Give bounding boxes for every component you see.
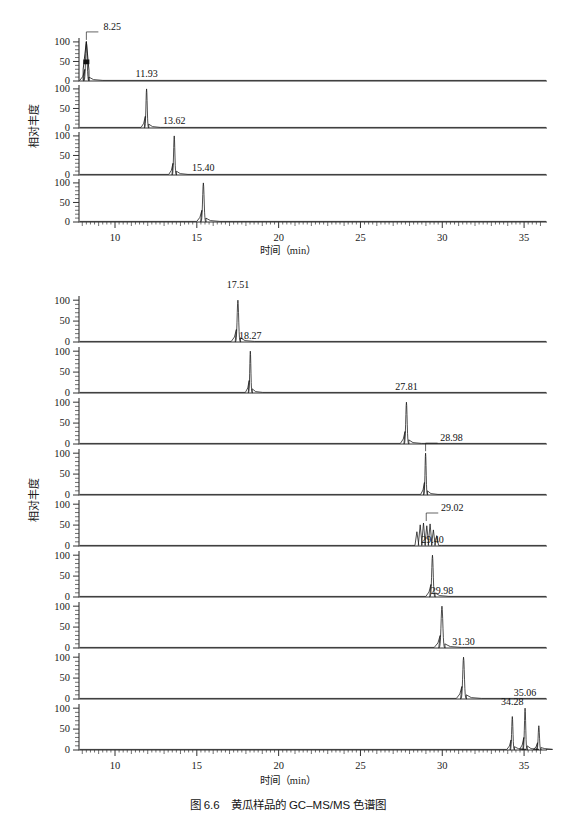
svg-text:50: 50	[60, 621, 71, 632]
peak-label: 15.40	[192, 162, 215, 173]
peak-label: 8.25	[104, 21, 122, 32]
svg-text:100: 100	[54, 448, 70, 459]
svg-text:50: 50	[60, 417, 71, 428]
peak-label: 17.51	[227, 279, 250, 290]
svg-text:50: 50	[60, 519, 71, 530]
y-axis-label-upper: 相对丰度	[27, 104, 40, 148]
svg-text:100: 100	[54, 550, 70, 561]
x-tick-label: 30	[437, 232, 448, 243]
chromatogram-svg: 1005008.2510050011.9310050013.6210050015…	[0, 0, 576, 836]
panel-upper-2: 10050011.93	[54, 68, 547, 133]
svg-text:100: 100	[54, 652, 70, 663]
panel-lower-9: 10050034.2835.06101520253035	[54, 687, 552, 771]
svg-text:50: 50	[60, 468, 71, 479]
x-axis-label-upper: 时间（min）	[260, 244, 316, 256]
panel-upper-3: 10050013.62	[54, 115, 547, 180]
svg-text:50: 50	[60, 570, 71, 581]
x-tick-label: 25	[355, 232, 366, 243]
svg-text:100: 100	[54, 499, 70, 510]
svg-text:100: 100	[54, 83, 70, 94]
x-tick-label: 25	[355, 760, 366, 771]
x-tick-label: 35	[519, 760, 530, 771]
figure-caption: 图 6.6 黄瓜样品的 GC–MS/MS 色谱图	[190, 799, 387, 811]
peak-label: 35.06	[514, 687, 537, 698]
x-axis-label-lower: 时间（min）	[260, 774, 316, 786]
svg-text:100: 100	[54, 703, 70, 714]
x-tick-label: 20	[273, 760, 284, 771]
peak-label: 31.30	[452, 636, 475, 647]
panel-upper-1: 1005008.25	[54, 21, 547, 86]
svg-text:50: 50	[60, 150, 71, 161]
svg-text:100: 100	[54, 36, 70, 47]
x-tick-label: 15	[192, 760, 203, 771]
x-tick-label: 15	[192, 232, 203, 243]
peak-label: 29.98	[431, 585, 454, 596]
svg-text:50: 50	[60, 197, 71, 208]
peak-label: 27.81	[395, 381, 418, 392]
svg-text:0: 0	[65, 216, 70, 227]
peak-label: 11.93	[136, 68, 158, 79]
x-tick-label: 10	[110, 760, 121, 771]
svg-text:50: 50	[60, 366, 71, 377]
svg-text:50: 50	[60, 56, 71, 67]
panel-lower-2: 10050018.27	[54, 330, 547, 398]
svg-text:100: 100	[54, 295, 70, 306]
svg-text:100: 100	[54, 397, 70, 408]
svg-text:100: 100	[54, 130, 70, 141]
panel-lower-5: 10050029.02	[54, 499, 547, 552]
peak-label: 28.98	[440, 432, 463, 443]
x-tick-label: 10	[110, 232, 121, 243]
chromatogram-figure: 1005008.2510050011.9310050013.6210050015…	[0, 0, 576, 836]
peak-label: 29.02	[441, 502, 464, 513]
svg-text:50: 50	[60, 723, 71, 734]
svg-text:0: 0	[65, 744, 70, 755]
svg-text:50: 50	[60, 315, 71, 326]
peak-label: 18.27	[239, 330, 262, 341]
panel-lower-8: 10050031.30	[54, 636, 547, 704]
peak-label: 13.62	[163, 115, 186, 126]
x-tick-label: 30	[437, 760, 448, 771]
panel-lower-4: 10050028.98	[54, 432, 547, 500]
y-axis-label-lower: 相对丰度	[27, 478, 40, 522]
svg-text:50: 50	[60, 103, 71, 114]
svg-text:100: 100	[54, 601, 70, 612]
panel-lower-3: 10050027.81	[54, 381, 547, 449]
x-tick-label: 35	[519, 232, 530, 243]
panel-lower-1: 10050017.51	[54, 279, 547, 347]
x-tick-label: 20	[273, 232, 284, 243]
svg-text:100: 100	[54, 346, 70, 357]
svg-text:50: 50	[60, 672, 71, 683]
peak-label: 29.40	[421, 534, 444, 545]
svg-text:100: 100	[54, 177, 70, 188]
panel-lower-6: 10050029.40	[54, 534, 547, 602]
